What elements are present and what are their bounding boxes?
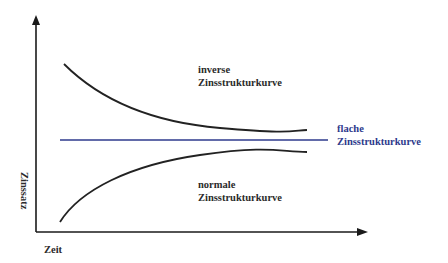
flat-label-line2: Zinsstrukturkurve (337, 135, 421, 148)
normal-label-line1: normale (198, 178, 282, 191)
normal-curve-label: normale Zinsstrukturkurve (198, 178, 282, 204)
flat-curve-label: flache Zinsstrukturkurve (337, 122, 421, 148)
flat-label-line1: flache (337, 122, 421, 135)
inverse-label-line2: Zinsstrukturkurve (198, 76, 282, 89)
normal-label-line2: Zinsstrukturkurve (198, 191, 282, 204)
x-axis-arrow-icon (357, 228, 368, 236)
inverse-label-line1: inverse (198, 63, 282, 76)
x-axis-label: Zeit (44, 243, 62, 256)
y-axis-arrow-icon (32, 15, 40, 25)
y-axis-label: Zinssatz (19, 172, 30, 209)
inverse-curve-label: inverse Zinsstrukturkurve (198, 63, 282, 89)
yield-curve-chart: inverse Zinsstrukturkurve flache Zinsstr… (0, 0, 448, 263)
